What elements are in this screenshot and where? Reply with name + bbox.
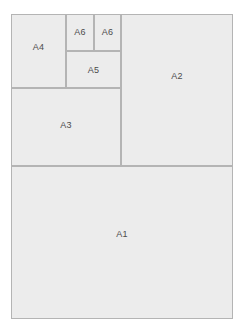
paper-cell-a5-label: A5	[88, 66, 99, 75]
paper-cell-a2-label: A2	[171, 72, 182, 81]
paper-cell-a6-right-label: A6	[102, 28, 113, 37]
paper-cell-a2: A2	[121, 14, 233, 166]
paper-cell-a4: A4	[11, 14, 66, 88]
paper-size-diagram: A1 A2 A3 A4 A5 A6 A6	[0, 0, 244, 332]
paper-cell-a6-right: A6	[94, 14, 121, 51]
paper-cell-a6-left-label: A6	[74, 28, 85, 37]
paper-cell-a3-label: A3	[60, 121, 71, 130]
paper-cell-a3: A3	[11, 88, 121, 166]
paper-cell-a1: A1	[11, 166, 233, 319]
paper-cell-a6-left: A6	[66, 14, 94, 51]
paper-cell-a1-label: A1	[116, 230, 127, 239]
paper-cell-a4-label: A4	[33, 43, 44, 52]
paper-cell-a5: A5	[66, 51, 121, 88]
